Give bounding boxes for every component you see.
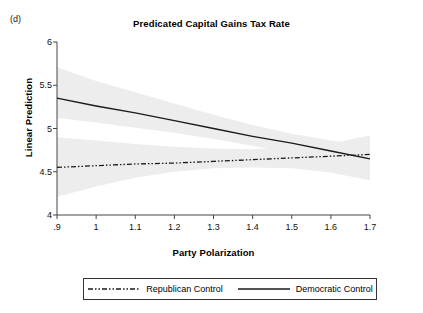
- legend-label: Republican Control: [146, 284, 223, 294]
- figure-panel-d: (d) Predicated Capital Gains Tax Rate Li…: [0, 0, 423, 313]
- x-tick-label: 1.1: [129, 222, 142, 232]
- legend-item: Republican Control: [87, 284, 223, 294]
- y-tick-label: 5.5: [18, 80, 52, 90]
- legend-line-swatch: [237, 285, 291, 293]
- y-tick-label: 6: [18, 37, 52, 47]
- x-tick-label: 1.3: [207, 222, 220, 232]
- legend-label: Democratic Control: [296, 284, 373, 294]
- y-tick-label: 4: [18, 210, 52, 220]
- x-tick-label: 1.2: [168, 222, 181, 232]
- legend-item: Democratic Control: [237, 284, 373, 294]
- x-tick-label: 1.4: [246, 222, 259, 232]
- x-tick-label: .9: [53, 222, 61, 232]
- x-tick-label: 1.6: [325, 222, 338, 232]
- x-tick-label: 1: [94, 222, 99, 232]
- y-tick-label: 4.5: [18, 167, 52, 177]
- x-tick-label: 1.7: [364, 222, 377, 232]
- legend: Republican ControlDemocratic Control: [83, 278, 377, 300]
- x-tick-label: 1.5: [285, 222, 298, 232]
- confidence-band-republican-control: [57, 135, 370, 196]
- y-tick-label: 5: [18, 124, 52, 134]
- plot-canvas: [0, 0, 423, 313]
- legend-line-swatch: [87, 285, 141, 293]
